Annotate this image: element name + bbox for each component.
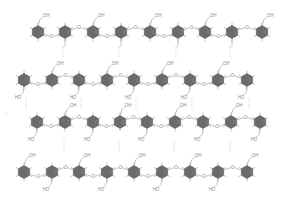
atom-label: O: [67, 30, 71, 35]
atom-label: O: [146, 82, 150, 87]
bond: [71, 175, 74, 176]
atom-label: O: [220, 170, 224, 175]
bond: [44, 175, 47, 176]
bond: [239, 75, 242, 76]
bond: [133, 87, 134, 93]
bond: [167, 125, 170, 126]
bond: [71, 125, 74, 126]
bond: [30, 35, 33, 36]
bond: [266, 125, 269, 126]
atom-label: O: [136, 78, 140, 83]
bond: [127, 35, 130, 36]
bond: [99, 35, 102, 36]
bond: [150, 20, 152, 26]
atom-label: O: [50, 34, 54, 39]
bond: [168, 167, 171, 168]
bond: [196, 83, 199, 84]
benzene-ring: OO: [113, 23, 145, 49]
atom-label: O: [26, 170, 30, 175]
atom-label: O: [249, 78, 253, 83]
atom-label: OH: [112, 61, 119, 66]
atom-label: HO: [125, 95, 132, 100]
bond: [118, 46, 121, 49]
bond: [231, 110, 233, 116]
bond: [196, 175, 199, 176]
bond: [58, 75, 61, 76]
atom-label: OH: [210, 13, 217, 18]
bond: [162, 68, 164, 74]
bond: [16, 167, 19, 168]
bond: [170, 35, 173, 36]
benzene-ring: OOH: [239, 153, 259, 182]
bond: [182, 83, 185, 84]
bond: [229, 46, 232, 49]
bond: [57, 35, 60, 36]
atom-label: O: [49, 124, 53, 129]
bond: [140, 167, 143, 168]
bond: [126, 125, 129, 126]
bond: [268, 35, 271, 36]
bond: [175, 110, 177, 116]
bond: [52, 68, 54, 74]
bond: [99, 27, 102, 28]
atom-label: O: [207, 30, 211, 35]
bond: [16, 75, 19, 76]
bond: [16, 83, 19, 84]
atom-label: O: [202, 174, 206, 179]
bond: [140, 75, 143, 76]
atom-label: OH: [252, 153, 259, 158]
bond: [181, 125, 184, 126]
bond: [218, 68, 220, 74]
bond: [62, 46, 65, 49]
atom-label: HO: [251, 137, 258, 142]
benzene-ring: OOHO: [210, 61, 242, 90]
bond: [154, 167, 157, 168]
atom-label: O: [205, 120, 209, 125]
benzene-ring: OOHO: [30, 13, 60, 42]
bond: [209, 117, 212, 118]
benzene-ring: OHOO: [138, 113, 170, 142]
atom-label: O: [180, 30, 184, 35]
bond: [71, 83, 74, 84]
bond: [29, 117, 32, 118]
bond: [140, 175, 143, 176]
bond: [196, 167, 199, 168]
atom-label: O: [234, 30, 238, 35]
bond: [182, 75, 185, 76]
atom-label: OH: [180, 103, 187, 108]
bond: [71, 27, 74, 28]
benzene-ring: OOHO: [142, 13, 173, 42]
bond: [205, 20, 207, 26]
benzene-ring: OHOO: [98, 163, 129, 192]
atom-label: OH: [84, 153, 91, 158]
bond: [24, 160, 26, 166]
bond: [79, 160, 81, 166]
bond: [197, 27, 200, 28]
atom-label: O: [231, 73, 235, 78]
bond: [195, 125, 198, 126]
bond: [126, 175, 129, 176]
atom-label: O: [262, 120, 266, 125]
bond: [238, 35, 241, 36]
bond: [99, 83, 102, 84]
bond: [254, 35, 257, 36]
atom-label: O: [77, 25, 81, 30]
bond: [253, 175, 256, 176]
bond: [268, 27, 271, 28]
atom-label: HO: [98, 187, 105, 192]
bond: [239, 175, 242, 176]
benzene-ring: OOHO: [44, 61, 74, 90]
atom-label: HO: [138, 137, 145, 142]
benzene-ring: OHOO: [181, 71, 213, 100]
bond: [113, 83, 116, 84]
benzene-ring: OO: [57, 23, 88, 49]
atom-label: O: [109, 170, 113, 175]
atom-label: O: [39, 120, 43, 125]
atom-label: O: [244, 115, 248, 120]
atom-label: O: [26, 78, 30, 83]
atom-label: O: [264, 30, 268, 35]
atom-label: OH: [98, 13, 105, 18]
benzene-ring: OHOO: [43, 163, 74, 192]
bond: [58, 175, 61, 176]
benzene-ring: OO: [170, 23, 200, 49]
